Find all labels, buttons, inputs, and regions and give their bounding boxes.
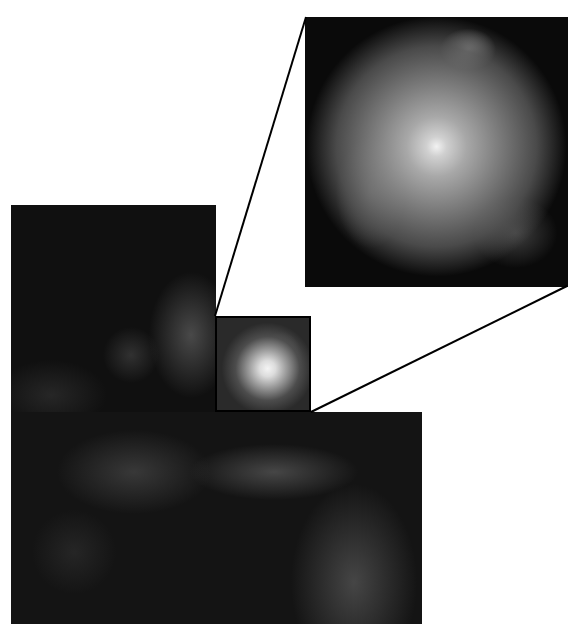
galaxy-mosaic-upper <box>11 205 216 413</box>
galaxy-mosaic-lower <box>14 412 422 624</box>
galaxy-core-highlight <box>215 316 311 412</box>
galaxy-core-zoom-inset <box>305 17 568 287</box>
